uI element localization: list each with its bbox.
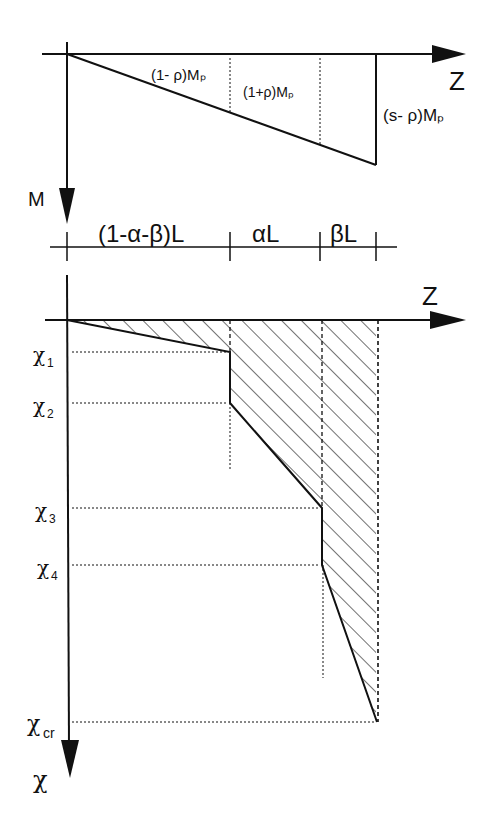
chi-axis-arrowhead: [61, 740, 79, 778]
svg-text:4: 4: [51, 569, 58, 583]
curvature-diagram: Z χ 1 χ 2 χ 3 χ 4 χ cr χ: [27, 275, 466, 794]
moment-line: [67, 54, 376, 165]
svg-text:χ: χ: [35, 499, 47, 523]
svg-text:3: 3: [49, 512, 56, 526]
moment-label-3: (s- ρ)Mₚ: [383, 106, 444, 125]
chi-label-3: χ 3: [35, 499, 56, 526]
chi-label-1: χ 1: [33, 343, 54, 370]
dimension-line-group: (1-α-β)L αL βL: [50, 220, 397, 261]
chi-label-cr: χ cr: [27, 711, 55, 741]
svg-text:cr: cr: [43, 725, 55, 741]
moment-label-1: (1- ρ)Mₚ: [151, 66, 206, 83]
svg-text:χ: χ: [33, 394, 45, 418]
svg-text:χ: χ: [33, 343, 45, 367]
chi-label-2: χ 2: [33, 394, 54, 421]
chi-axis-label: χ: [33, 766, 48, 794]
svg-text:χ: χ: [37, 556, 49, 580]
chi-label-4: χ 4: [37, 556, 58, 583]
moment-diagram: Z M (1- ρ)Mₚ (1+ρ)Mₚ (s- ρ)Mₚ: [28, 42, 466, 224]
svg-text:1: 1: [47, 356, 54, 370]
svg-text:2: 2: [47, 407, 54, 421]
chi-axis: [67, 275, 69, 745]
diagram-canvas: Z M (1- ρ)Mₚ (1+ρ)Mₚ (s- ρ)Mₚ (1-α-β)L α…: [0, 0, 493, 829]
dimension-label-3: βL: [330, 220, 357, 247]
dimension-label-1: (1-α-β)L: [98, 220, 184, 247]
m-axis-label: M: [28, 188, 45, 210]
z-axis-bottom-arrowhead: [430, 311, 466, 329]
dimension-label-2: αL: [252, 220, 279, 247]
z-axis-top-label: Z: [449, 66, 465, 96]
svg-text:χ: χ: [27, 711, 40, 736]
z-axis-top-arrowhead: [432, 45, 466, 63]
curvature-hatched-area: [67, 320, 376, 722]
moment-label-2: (1+ρ)Mₚ: [243, 84, 294, 100]
m-axis-arrowhead: [59, 188, 75, 224]
z-axis-bottom-label: Z: [422, 281, 438, 311]
